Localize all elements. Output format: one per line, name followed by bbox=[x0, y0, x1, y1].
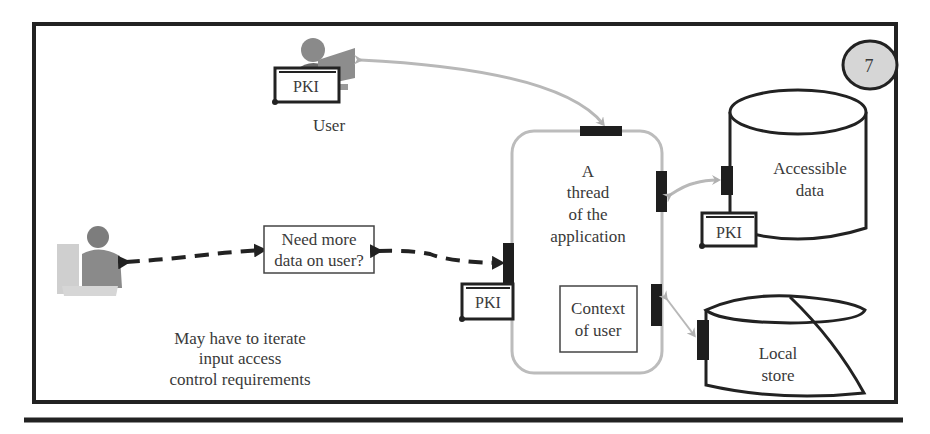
step-number: 7 bbox=[865, 56, 874, 76]
pki-label: PKI bbox=[293, 78, 319, 95]
thread-line-3: of the bbox=[568, 205, 607, 224]
accessible-pki-scroll: PKI bbox=[699, 213, 756, 249]
prompt-line-1: Need more bbox=[281, 230, 356, 249]
thread-port-left bbox=[503, 243, 514, 285]
prompt-line-2: data on user? bbox=[274, 251, 364, 270]
iterate-line-3: control requirements bbox=[169, 370, 310, 389]
access-control-diagram: 7 PKI User Need more data on user? May h… bbox=[0, 0, 930, 434]
thread-port-right-upper bbox=[656, 171, 667, 212]
accessible-line-1: Accessible bbox=[773, 159, 847, 178]
thread-port-right-lower bbox=[651, 284, 662, 326]
iterate-note: May have to iterate input access control… bbox=[169, 329, 310, 389]
local-store-port bbox=[697, 320, 709, 360]
prompt-thread-dashed-arrow bbox=[378, 251, 500, 263]
local-line-2: store bbox=[761, 366, 794, 385]
local-line-1: Local bbox=[759, 344, 798, 363]
iterate-line-1: May have to iterate bbox=[174, 329, 306, 348]
person-at-desk-icon bbox=[57, 226, 122, 296]
local-store: Local store bbox=[706, 296, 865, 396]
context-line-2: of user bbox=[575, 321, 622, 340]
thread-line-4: application bbox=[550, 227, 626, 246]
context-line-1: Context bbox=[571, 299, 625, 318]
thread-port-top bbox=[580, 126, 622, 136]
pki-label: PKI bbox=[475, 294, 501, 311]
thread-accessible-connector bbox=[670, 180, 718, 195]
prompt-box: Need more data on user? bbox=[264, 226, 374, 273]
step-badge: 7 bbox=[843, 41, 897, 89]
admin-prompt-dashed-arrow bbox=[126, 250, 262, 262]
accessible-data-port bbox=[721, 166, 733, 195]
context-of-user-box: Context of user bbox=[560, 286, 637, 352]
user-label: User bbox=[313, 116, 345, 135]
thread-line-1: A bbox=[582, 162, 595, 181]
user-thread-connector bbox=[360, 60, 603, 124]
iterate-line-2: input access bbox=[199, 349, 282, 368]
thread-pki-scroll: PKI bbox=[459, 284, 513, 322]
thread-local-connector bbox=[666, 298, 694, 335]
pki-label: PKI bbox=[716, 224, 742, 241]
accessible-line-2: data bbox=[796, 181, 825, 200]
thread-line-2: thread bbox=[567, 183, 610, 202]
user-pki-scroll: PKI bbox=[272, 68, 339, 105]
thread-label: A thread of the application bbox=[550, 162, 626, 246]
